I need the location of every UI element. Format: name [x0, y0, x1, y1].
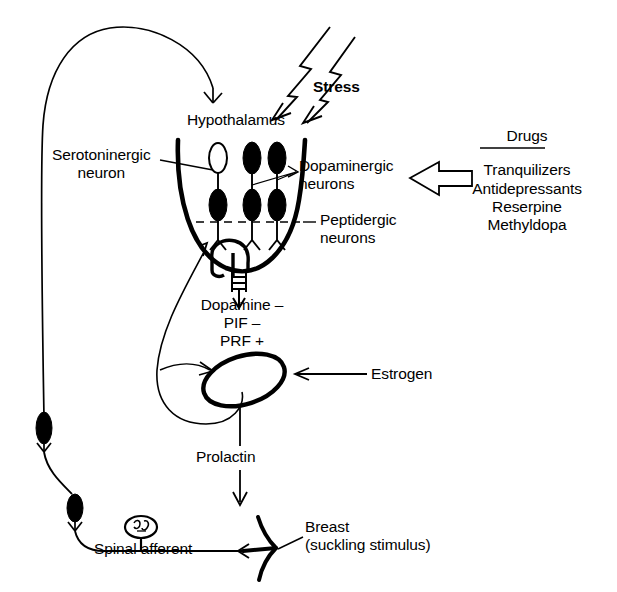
drugs-heading: Drugs — [447, 127, 607, 145]
dopaminergic-neurons-label-line2: neurons — [299, 175, 393, 193]
serotoninergic-terminal-icon — [204, 88, 222, 103]
breast-label-line1: Breast — [305, 518, 431, 536]
peptidergic-neuron-icon-2 — [243, 189, 261, 250]
serotoninergic-leader-line — [160, 160, 213, 170]
dopamine-label: Dopamine – — [186, 296, 298, 314]
breast-label: Breast (suckling stimulus) — [305, 518, 431, 555]
hypothalamus-label: Hypothalamus — [187, 111, 285, 129]
axon-segment — [44, 452, 72, 494]
breast-nipple-icon — [243, 517, 276, 580]
stress-label: Stress — [313, 78, 360, 96]
stress-bolt-icon — [272, 27, 355, 123]
cell-body-icon — [36, 412, 52, 444]
serotoninergic-neuron-label-line2: neuron — [52, 164, 151, 182]
pif-label: PIF – — [186, 314, 298, 332]
peptidergic-neurons-label-line2: neurons — [320, 229, 396, 247]
dopaminergic-neurons-label: Dopaminergic neurons — [299, 157, 393, 194]
serotoninergic-neuron-label-line1: Serotoninergic — [52, 146, 151, 164]
drugs-panel: Drugs Tranquilizers Antidepressants Rese… — [447, 127, 607, 234]
drug-item-reserpine: Reserpine — [447, 198, 607, 216]
serotoninergic-neuron-label: Serotoninergic neuron — [52, 146, 151, 182]
hypothalamic-factors-label: Dopamine – PIF – PRF + — [186, 296, 298, 350]
peptidergic-neurons-label: Peptidergic neurons — [320, 211, 396, 248]
diagram-canvas — [0, 0, 617, 592]
cell-body-terminal-icon-2 — [68, 522, 82, 531]
drug-item-antidepressants: Antidepressants — [447, 180, 607, 198]
estrogen-arrow — [295, 368, 367, 380]
dopaminergic-neurons-label-line1: Dopaminergic — [299, 157, 393, 175]
prf-label: PRF + — [186, 332, 298, 350]
dopaminergic-leader-line — [252, 172, 296, 185]
breast-leader-line — [278, 537, 303, 549]
prolactin-label: Prolactin — [196, 448, 255, 466]
drug-item-tranquilizers: Tranquilizers — [447, 161, 607, 179]
cell-body-icon-2 — [67, 494, 83, 522]
spinal-afferent-label: Spinal afferent — [94, 540, 192, 558]
pituitary-gland-icon — [197, 344, 292, 416]
breast-label-line2: (suckling stimulus) — [305, 536, 431, 554]
drug-item-methyldopa: Methyldopa — [447, 216, 607, 234]
estrogen-label: Estrogen — [371, 365, 432, 383]
neuroendocrine-diagram: Stress Hypothalamus Serotoninergic neuro… — [0, 0, 617, 592]
cell-body-terminal-icon — [37, 443, 51, 452]
peptidergic-neurons-label-line1: Peptidergic — [320, 211, 396, 229]
feedback-into-pituitary-arrow — [160, 362, 213, 375]
